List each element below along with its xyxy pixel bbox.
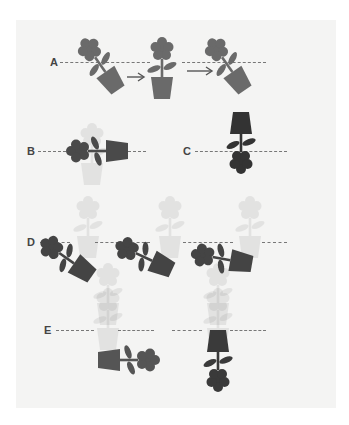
horizon-line-d4 <box>262 242 287 243</box>
horizon-line-e4 <box>230 330 266 331</box>
plant-d2-tilted <box>172 270 173 271</box>
row-label-e: E <box>44 324 51 336</box>
plant-a2-upright <box>162 99 163 100</box>
ghost-plant-d2 <box>170 258 171 259</box>
horizon-line-e2 <box>118 330 154 331</box>
arrow-icon <box>186 66 214 76</box>
ghost-plant-b <box>92 185 93 186</box>
plant-a3-tilted <box>245 90 246 91</box>
plant-e1-horizontal <box>98 360 99 361</box>
horizon-line-e3 <box>172 330 202 331</box>
plant-a1-tilted <box>118 90 119 91</box>
row-label-a: A <box>50 56 58 68</box>
plant-d3-near-horizontal <box>252 264 253 265</box>
row-label-c: C <box>183 145 191 157</box>
row-label-d: D <box>27 236 35 248</box>
plant-d1-tilted <box>92 276 93 277</box>
plant-b-horizontal <box>128 151 129 152</box>
horizon-line-d3 <box>183 242 233 243</box>
horizon-line-e1 <box>56 330 94 331</box>
plant-e2-inverted <box>218 330 219 331</box>
ghost-plant-d1 <box>88 258 89 259</box>
row-label-b: B <box>27 145 35 157</box>
plant-c-inverted <box>241 112 242 113</box>
arrow-icon <box>126 72 146 82</box>
